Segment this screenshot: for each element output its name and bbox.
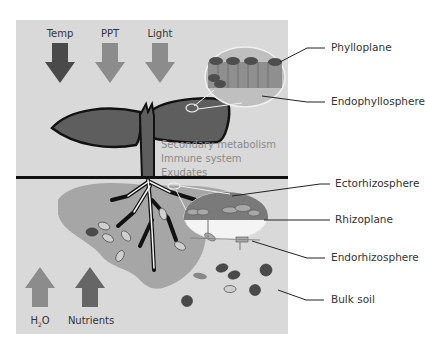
h2o-arrow-icon [25,88,55,307]
stem [140,104,154,178]
right-leaf [152,98,229,143]
left-leaf [52,109,141,147]
function-immune-system: Immune system [161,152,242,166]
label-rhizoplane: Rhizoplane [335,213,393,225]
h2o-label: H2O [25,315,55,328]
ppt-arrow-icon [95,43,125,83]
function-exudates: Exudates [161,166,207,180]
function-secondary-metabolism: Secondary metabolism [161,138,276,152]
light-arrow-icon [145,43,175,83]
nutrients-label: Nutrients [66,315,116,326]
soil-surface-line [16,176,288,179]
label-endorhizosphere: Endorhizosphere [331,251,419,263]
light-label: Light [145,28,175,39]
callout-endorhizosphere [252,241,325,258]
callout-bulk-soil [278,290,324,300]
label-bulk-soil: Bulk soil [331,293,375,305]
ppt-label: PPT [95,28,125,39]
temp-label: Temp [45,28,75,39]
nutrients-arrow-icon [75,267,105,307]
temp-arrow-icon [45,43,75,83]
callout-ectorhizosphere [232,184,330,196]
callout-phylloplane [280,48,325,62]
label-ectorhizosphere: Ectorhizosphere [335,177,419,189]
label-phylloplane: Phylloplane [331,41,392,53]
label-endophyllosphere: Endophyllosphere [331,95,425,107]
